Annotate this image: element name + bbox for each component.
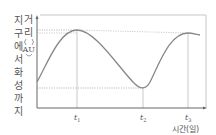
tick-t2: t2: [140, 113, 146, 123]
y-label-char: 구: [14, 28, 23, 39]
y-label-char: 화: [14, 67, 23, 78]
y-axis-arrow-icon: [36, 15, 39, 19]
y-axis-label-column-1: 지 구 에 서 화 성 까 지: [14, 15, 23, 117]
y-label-char: 까: [14, 93, 23, 104]
tick-t3: t3: [185, 113, 191, 123]
y-label-char: 거: [24, 14, 33, 25]
y-label-unit: AU: [22, 45, 36, 54]
y-label-char: 리: [24, 27, 33, 38]
y-axis-label-column-2: 거 리 AU: [22, 14, 36, 56]
x-axis-label: 시간(일): [172, 124, 199, 134]
y-label-char: 지: [14, 106, 23, 117]
unit-paren-bottom-icon: [26, 54, 32, 56]
guide-peak-line: [77, 30, 188, 33]
distance-time-chart: 지 구 에 서 화 성 까 지 거 리 AU t1 t2 t3 시간(일): [0, 0, 216, 135]
tick-t1: t1: [74, 113, 80, 123]
y-label-char: 성: [14, 80, 23, 91]
distance-curve: [37, 30, 200, 88]
y-label-char: 서: [14, 54, 23, 65]
y-label-char: 지: [14, 15, 23, 26]
